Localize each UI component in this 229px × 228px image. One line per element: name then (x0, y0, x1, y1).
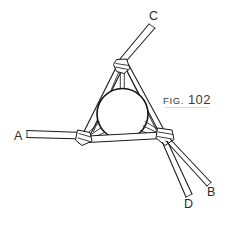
strand-d (163, 142, 193, 198)
caption-prefix: Fig. (163, 95, 184, 106)
label-c: C (149, 10, 158, 23)
label-b: B (207, 186, 216, 199)
right-lashing-node (156, 128, 174, 146)
line-drawing (0, 0, 229, 228)
caption-number: 102 (184, 92, 211, 107)
left-lashing-node (76, 130, 93, 146)
figure-caption: Fig. 102 (163, 90, 211, 108)
label-a: A (14, 130, 23, 143)
caption-underline (165, 107, 209, 108)
strand-b (166, 140, 211, 187)
center-ring (97, 89, 148, 140)
label-d: D (184, 198, 193, 211)
figure-canvas: A B C D Fig. 102 (0, 0, 229, 228)
